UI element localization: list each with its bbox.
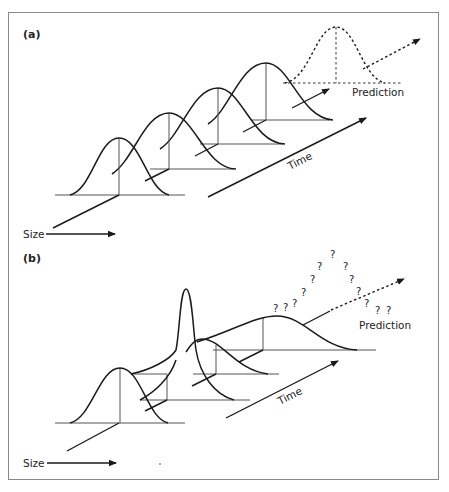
question-mark: ? [386,305,391,316]
question-mark: ? [364,298,369,309]
panel-b-size-label: Size [23,457,45,469]
question-mark: ? [292,298,297,309]
panel-b-prediction-label: Prediction [359,319,411,331]
panel-b-time-arrow [226,361,338,418]
panel-a-distribution-t4 [208,63,333,124]
question-mark: ? [349,274,354,285]
question-mark: ? [343,261,348,272]
panel-b-trend-line [303,311,330,325]
panel-b: (b) [23,249,411,469]
panel-b-distribution-t2 [131,289,250,400]
panel-a: (a) [23,27,420,240]
panel-a-size-axis-diagonal [53,195,119,228]
panel-a-prediction-arrow [363,39,420,69]
panel-b-time-label: Time [275,384,304,407]
panel-a-prediction-label: Prediction [352,86,404,98]
panel-b-distribution-t1 [55,368,185,423]
question-mark: ? [317,261,322,272]
panel-a-time-arrow [208,118,366,197]
panel-b-distribution-t4 [197,316,376,350]
panel-a-distribution-predicted [283,27,420,83]
question-mark: ? [330,249,335,260]
panel-b-size-axis-diagonal [67,423,119,451]
question-mark: ? [310,274,315,285]
panel-b-distribution-t3 [186,339,279,374]
question-mark: ? [301,287,306,298]
panel-a-size-label: Size [23,228,45,240]
panel-a-time-label: Time [285,149,314,172]
question-mark: ? [375,305,380,316]
question-mark: ? [356,286,361,297]
question-mark: ? [273,303,278,314]
panel-b-uncertainty-marks: ? ? ? ? ? ? ? ? ? ? ? ? ? [273,249,391,316]
panel-a-label: (a) [23,28,40,41]
speck [159,463,161,465]
panel-b-label: (b) [23,252,41,265]
question-mark: ? [283,302,288,313]
distribution-diagram: (a) [0,0,449,492]
